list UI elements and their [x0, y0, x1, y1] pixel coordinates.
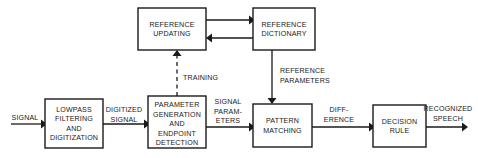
- edge-label-difference: DIFF- ERENCE: [324, 106, 355, 124]
- edge-label-recognized-speech: RECOGNIZED SPEECH: [424, 105, 473, 123]
- edge-label-signal-input: SIGNAL: [12, 114, 39, 122]
- block-lowpass-line1: LOWPASS: [56, 106, 92, 114]
- connection-pattern-matching-to-decision-rule: [312, 123, 375, 132]
- block-lowpass-line3: AND: [66, 125, 81, 133]
- block-diagram: REFERENCE UPDATING REFERENCE DICTIONARY …: [0, 0, 478, 158]
- edge-label-signal-parameters-line3: ETERS: [216, 117, 241, 125]
- block-parameter-generation-line5: DETECTION: [156, 139, 198, 147]
- block-reference-updating-line1: REFERENCE: [149, 21, 194, 29]
- block-parameter-generation-line3: AND: [169, 120, 184, 128]
- block-decision-rule[interactable]: DECISION RULE: [373, 105, 426, 147]
- edge-label-recognized-speech-line1: RECOGNIZED: [424, 105, 473, 113]
- block-lowpass-filtering-and-digitization[interactable]: LOWPASS FILTERING AND DIGITIZATION: [45, 99, 103, 148]
- block-parameter-generation-and-endpoint-detection[interactable]: PARAMETER GENERATION AND ENDPOINT DETECT…: [148, 96, 206, 148]
- block-reference-dictionary-line2: DICTIONARY: [261, 30, 306, 38]
- connection-decision-rule-to-recognized-speech: [426, 123, 468, 132]
- block-lowpass-line2: FILTERING: [55, 115, 93, 123]
- edge-label-training: TRAINING: [183, 74, 218, 82]
- edge-label-signal-parameters: SIGNAL PARAM- ETERS: [214, 98, 242, 125]
- block-pattern-matching[interactable]: PATTERN MATCHING: [253, 104, 312, 147]
- edge-label-digitized-signal-line2: SIGNAL: [111, 116, 138, 124]
- connection-reference-updating-to-reference-dictionary: [206, 16, 255, 25]
- edge-label-signal-parameters-line2: PARAM-: [214, 108, 242, 116]
- edge-label-digitized-signal-line1: DIGITIZED: [106, 106, 142, 114]
- block-pattern-matching-line2: MATCHING: [263, 127, 302, 135]
- block-pattern-matching-line1: PATTERN: [266, 117, 299, 125]
- edge-label-difference-line2: ERENCE: [324, 116, 355, 124]
- block-lowpass-line4: DIGITIZATION: [50, 134, 98, 142]
- edge-label-reference-parameters-line2: PARAMETERS: [280, 77, 330, 85]
- edge-label-recognized-speech-line2: SPEECH: [433, 115, 463, 123]
- block-parameter-generation-line4: ENDPOINT: [158, 130, 196, 138]
- block-reference-updating-line2: UPDATING: [153, 30, 190, 38]
- connection-reference-dictionary-to-reference-updating: [206, 34, 253, 43]
- edge-label-signal-parameters-line1: SIGNAL: [215, 98, 242, 106]
- block-parameter-generation-line2: GENERATION: [153, 111, 201, 119]
- edge-label-reference-parameters: REFERENCE PARAMETERS: [280, 67, 330, 85]
- block-decision-rule-line2: RULE: [390, 127, 410, 135]
- edge-label-difference-line1: DIFF-: [330, 106, 349, 114]
- connection-reference-dictionary-to-pattern-matching: [268, 50, 277, 104]
- block-reference-dictionary-line1: REFERENCE: [261, 21, 306, 29]
- block-decision-rule-line1: DECISION: [382, 118, 418, 126]
- block-reference-updating[interactable]: REFERENCE UPDATING: [138, 8, 206, 50]
- edge-label-digitized-signal: DIGITIZED SIGNAL: [106, 106, 142, 124]
- diagram-canvas: REFERENCE UPDATING REFERENCE DICTIONARY …: [0, 0, 478, 158]
- connection-training-to-reference-updating: [173, 50, 182, 96]
- block-reference-dictionary[interactable]: REFERENCE DICTIONARY: [253, 8, 315, 50]
- edge-label-reference-parameters-line1: REFERENCE: [280, 67, 325, 75]
- block-parameter-generation-line1: PARAMETER: [155, 101, 200, 109]
